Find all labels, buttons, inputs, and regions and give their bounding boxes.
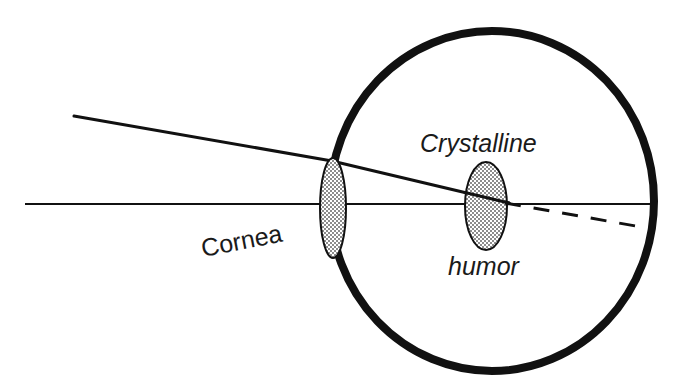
incident-ray-line [74,116,332,161]
label-cornea: Cornea [199,219,285,262]
eye-diagram-svg: Cornea Crystalline humor [0,0,675,392]
projected-ray-dashed-line [505,203,647,228]
cornea-lens [320,158,346,258]
label-humor: humor [448,252,521,280]
eye-diagram-canvas: Cornea Crystalline humor [0,0,675,392]
label-crystalline: Crystalline [420,129,537,157]
crystalline-lens [465,162,507,250]
